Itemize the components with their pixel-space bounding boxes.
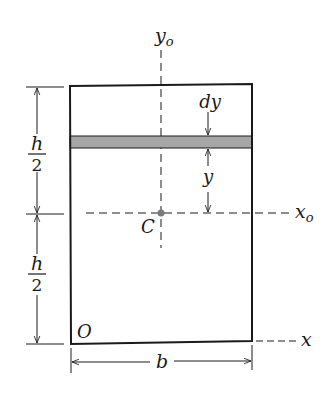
lower-half-height-denominator: 2 — [32, 275, 43, 295]
lower-half-height-numerator: h — [31, 252, 43, 274]
upper-half-height-denominator: 2 — [32, 155, 43, 175]
dy-label: dy — [199, 91, 222, 112]
y-centroidal-axis-label: yo — [154, 24, 174, 49]
width-label: b — [156, 350, 168, 372]
differential-strip — [70, 136, 252, 148]
y-distance-label: y — [202, 166, 214, 187]
upper-half-height-numerator: h — [31, 132, 43, 154]
origin-label: O — [77, 321, 92, 342]
centroid-dot — [158, 210, 165, 217]
centroid-label: C — [141, 216, 155, 237]
rectangle-diagram: h 2 h 2 dy y yo xo x C O b — [0, 0, 336, 398]
x-axis-label: x — [301, 328, 312, 350]
x-centroidal-axis-label: xo — [295, 200, 314, 225]
